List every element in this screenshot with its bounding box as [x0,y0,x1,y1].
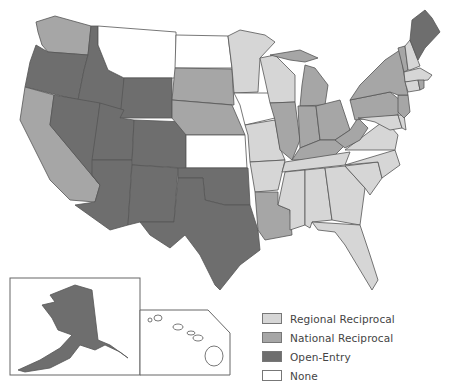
state-CT[interactable] [405,80,420,92]
legend-swatch [262,313,282,324]
legend-item-open-entry: Open-Entry [262,347,395,366]
state-MT[interactable] [98,26,176,78]
state-WY[interactable] [120,78,172,118]
state-WA[interactable] [36,16,91,55]
legend-swatch [262,332,282,343]
state-NM[interactable] [128,165,178,225]
legend: Regional Reciprocal National Reciprocal … [262,309,395,383]
state-CO[interactable] [132,120,186,168]
legend-item-none: None [262,366,395,383]
state-KS[interactable] [186,135,247,168]
state-SD[interactable] [172,68,234,105]
state-NJ[interactable] [398,95,410,118]
legend-item-national: National Reciprocal [262,328,395,347]
state-NY[interactable] [350,50,408,100]
legend-label: None [290,370,318,382]
legend-label: Open-Entry [290,351,351,363]
legend-swatch [262,351,282,362]
state-AR[interactable] [250,160,285,192]
legend-label: Regional Reciprocal [290,313,395,325]
state-MI-lower[interactable] [300,65,328,106]
state-ND[interactable] [175,35,232,68]
legend-label: National Reciprocal [290,332,393,344]
legend-item-regional: Regional Reciprocal [262,309,395,328]
legend-swatch [262,370,282,381]
state-FL[interactable] [312,222,378,290]
